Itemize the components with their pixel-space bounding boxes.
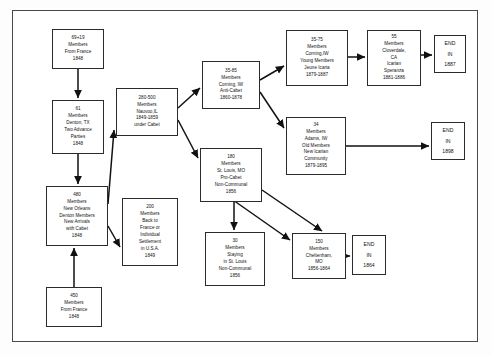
node-text-line: 1879-1895 (305, 163, 327, 170)
node-text-line: 1856 (226, 189, 236, 196)
node-text-line: 34 (313, 122, 318, 129)
node-text-line: 1848 (72, 233, 82, 240)
node-text-line: 200 (146, 204, 154, 211)
node-text-line: From France (61, 307, 88, 314)
node-text-line: Members (68, 113, 87, 120)
node-text-line: 1887 (444, 59, 455, 69)
node-end-in-1898: ENDIN1898 (431, 122, 465, 160)
node-cheltenham-missouri: 150MembersCheltenham,MO1856-1864 (292, 233, 346, 279)
diagram-canvas: 69+19MembersFrom France184861MembersDent… (0, 0, 492, 356)
node-text-line: From France (65, 49, 92, 56)
node-end-in-1887: ENDIN1887 (434, 35, 466, 73)
node-text-line: Corning, IW (219, 82, 243, 89)
node-denton-texas-advance-parties: 61MembersDenton, TXTwo AdvanceParties184… (52, 100, 104, 154)
node-text-line: Parties (71, 134, 85, 141)
node-text-line: 1849-1859 (136, 115, 158, 122)
node-text-line: New Orleans (64, 206, 91, 213)
node-text-line: 35-75 (311, 37, 323, 44)
edge-nauvoo-to-corning (178, 88, 200, 108)
node-text-line: Individual (140, 232, 160, 239)
node-text-line: 30 (232, 238, 237, 245)
node-corning-young-members-jeune-icaria: 35-75MembersCorning,IWYoung MembersJeune… (286, 30, 348, 86)
node-text-line: 150 (315, 239, 323, 246)
node-text-line: 69+19 (71, 35, 84, 42)
node-text-line: Speranza (384, 68, 404, 75)
node-text-line: 1849 (145, 253, 155, 260)
node-france-second-group: 450MembersFrom France1848 (46, 287, 102, 327)
node-text-line: France or (140, 225, 160, 232)
node-text-line: END (443, 125, 454, 135)
node-text-line: 1856 (230, 273, 240, 280)
node-st-louis-pro-cabet: 180MembersSt. Louis, MOPro-CabetNon-Comm… (200, 148, 262, 202)
node-text-line: Jeune Icaria (304, 65, 329, 72)
node-text-line: in U.S.A. (141, 246, 159, 253)
node-text-line: Settlement (139, 239, 161, 246)
node-text-line: Denton, TX (66, 120, 89, 127)
node-text-line: IN (366, 250, 371, 260)
node-text-line: 450 (70, 293, 78, 300)
node-text-line: Members (309, 246, 328, 253)
node-text-line: 1848 (73, 56, 83, 63)
node-text-line: 1848 (73, 141, 83, 148)
node-text-line: CA (391, 55, 397, 62)
node-text-line: Young Members (300, 58, 334, 65)
node-france-first-group: 69+19MembersFrom France1848 (52, 29, 104, 69)
node-nauvoo-illinois-colony: 280-500MembersNauvoo,IL1849-1859under Ca… (116, 88, 178, 136)
node-text-line: 1860-1878 (220, 95, 242, 102)
node-text-line: Community (304, 156, 327, 163)
node-text-line: 35-85 (225, 68, 237, 75)
node-text-line: Members (67, 199, 86, 206)
node-text-line: Members (140, 211, 159, 218)
node-text-line: Old Members (302, 143, 330, 150)
node-text-line: 1856-1864 (308, 266, 330, 273)
node-text-line: St. Louis, MO (217, 168, 245, 175)
edge-new-orleans-to-back-to-france (108, 226, 120, 247)
node-text-line: New Icarian (304, 149, 328, 156)
node-text-line: under Cabet (134, 122, 160, 129)
node-text-line: Cheltenham, (306, 253, 332, 260)
node-text-line: Icarian (387, 61, 401, 68)
node-corning-iowa-anti-cabet: 35-85MembersCorning, IWAnti-Cabet1860-18… (202, 61, 260, 109)
node-text-line: 1848 (69, 314, 79, 321)
node-text-line: Members (68, 42, 87, 49)
node-text-line: Denton Members (59, 213, 95, 220)
edge-new-orleans-to-nauvoo (108, 130, 114, 204)
node-text-line: Cloverdale, (382, 48, 405, 55)
node-text-line: Adams, IW (305, 136, 328, 143)
node-text-line: Members (221, 161, 240, 168)
node-text-line: Members (307, 44, 326, 51)
node-cloverdale-california-icarian-speranza: 55MembersCloverdale,CAIcarianSperanza188… (367, 30, 421, 86)
node-text-line: 55 (391, 34, 396, 41)
node-text-line: Members (221, 75, 240, 82)
node-text-line: Members (306, 129, 325, 136)
node-text-line: 280-500 (139, 95, 156, 102)
node-text-line: New Arrivals (64, 219, 90, 226)
node-text-line: IN (445, 136, 450, 146)
node-back-to-france-or-individual-settlement: 200MembersBack toFrance orIndividualSett… (122, 198, 178, 266)
node-text-line: Non-Communal (219, 266, 251, 273)
node-text-line: in St. Louis (224, 259, 247, 266)
node-text-line: END (445, 38, 456, 48)
node-text-line: Two Advance (64, 127, 92, 134)
node-new-orleans-regroup: 480MembersNew OrleansDenton MembersNew A… (46, 186, 108, 246)
node-text-line: Members (225, 245, 244, 252)
node-adams-old-members-new-icarian-community: 34MembersAdams, IWOld MembersNew Icarian… (286, 117, 346, 175)
node-text-line: with Cabet (66, 226, 88, 233)
node-text-line: 1879-1887 (306, 72, 328, 79)
node-text-line: Anti-Cabet (220, 88, 242, 95)
node-text-line: Staying (227, 252, 242, 259)
node-text-line: Members (64, 300, 83, 307)
node-text-line: 1881-1886 (383, 75, 405, 82)
node-text-line: 1864 (363, 260, 374, 270)
edge-nauvoo-to-st-louis (178, 120, 198, 158)
node-text-line: 180 (227, 154, 235, 161)
node-text-line: Members (137, 102, 156, 109)
node-text-line: Pro-Cabet (220, 175, 241, 182)
node-text-line: 61 (75, 106, 80, 113)
node-text-line: Members (384, 41, 403, 48)
node-text-line: MO (315, 259, 322, 266)
node-text-line: 480 (73, 192, 81, 199)
node-staying-in-st-louis: 30MembersStayingin St. LouisNon-Communal… (205, 232, 265, 286)
edge-corning-to-new-icarian (260, 92, 284, 128)
node-text-line: Back to (142, 218, 157, 225)
